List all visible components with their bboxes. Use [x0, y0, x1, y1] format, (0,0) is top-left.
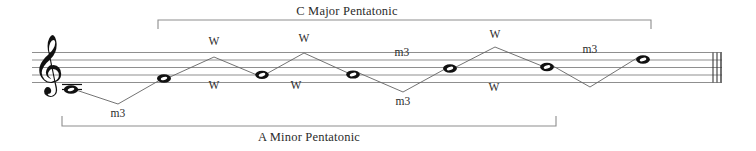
note-head-3 [255, 71, 269, 79]
notation-canvas [0, 0, 756, 151]
note-head-2 [157, 74, 171, 82]
music-notation-figure: 𝄞 C Major Pentatonic A Minor Pentatonic … [0, 0, 756, 151]
interval-label-w-below-3: W [488, 82, 499, 94]
note-head-5 [443, 64, 457, 72]
interval-label-w-below-1: W [208, 80, 219, 92]
bracket-top [158, 20, 651, 29]
interval-label-w-above-1: W [208, 36, 219, 48]
bracket-top-label: C Major Pentatonic [296, 4, 398, 19]
interval-label-w-below-2: W [290, 80, 301, 92]
note-head-7 [636, 55, 650, 63]
interval-label-m3-1: m3 [110, 108, 125, 120]
note-head-6 [540, 63, 554, 71]
interval-label-m3-below-2: m3 [395, 96, 410, 108]
bracket-bottom-label: A Minor Pentatonic [258, 130, 360, 145]
interval-label-w-above-3: W [489, 29, 500, 41]
staff-lines [32, 53, 722, 83]
treble-clef-icon: 𝄞 [33, 38, 64, 90]
note-head-4 [346, 70, 360, 78]
note-head-1 [64, 85, 78, 94]
bracket-bottom [62, 116, 556, 126]
interval-label-m3-above-2: m3 [394, 47, 409, 59]
interval-label-m3-above-3: m3 [582, 44, 597, 56]
interval-label-w-above-2: W [298, 33, 309, 45]
